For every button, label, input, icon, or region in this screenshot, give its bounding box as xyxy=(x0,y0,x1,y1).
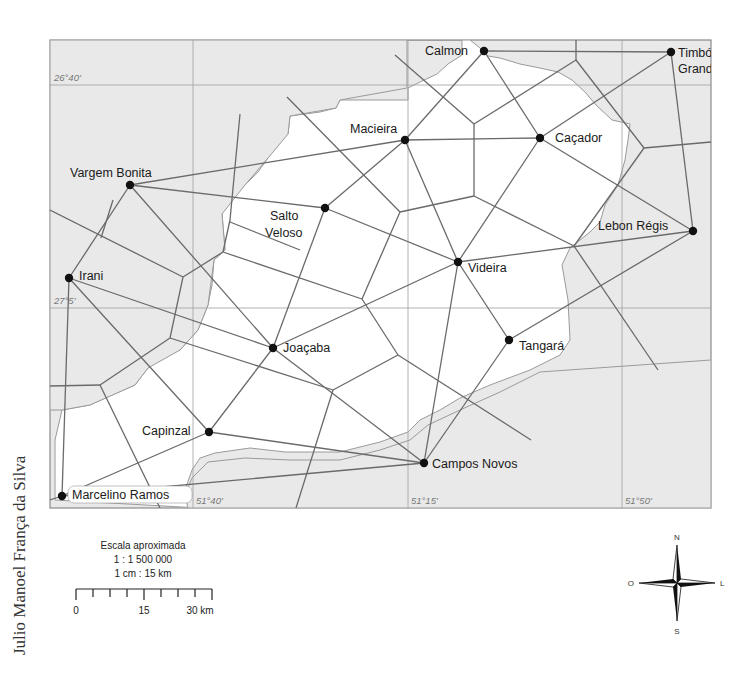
svg-text:1 cm : 15 km: 1 cm : 15 km xyxy=(114,568,171,579)
svg-text:0: 0 xyxy=(73,605,79,616)
svg-text:Marcelino Ramos: Marcelino Ramos xyxy=(72,488,169,502)
svg-text:Videira: Videira xyxy=(468,261,507,275)
svg-text:Capinzal: Capinzal xyxy=(142,424,191,438)
svg-text:27°5': 27°5' xyxy=(53,295,77,306)
map-figure: Calmon Timbó Grande Macieira Caçador Var… xyxy=(0,0,751,677)
svg-text:Grande: Grande xyxy=(678,62,720,76)
svg-text:Lebon Régis: Lebon Régis xyxy=(598,219,668,233)
city-marcelino-ramos[interactable]: Marcelino Ramos xyxy=(58,486,192,503)
svg-text:Campos Novos: Campos Novos xyxy=(432,457,517,471)
svg-text:1 : 1 500 000: 1 : 1 500 000 xyxy=(114,554,173,565)
svg-text:Tangará: Tangará xyxy=(519,339,564,353)
svg-text:51°40': 51°40' xyxy=(196,495,224,506)
svg-text:Irani: Irani xyxy=(79,269,103,283)
svg-text:Joaçaba: Joaçaba xyxy=(283,341,330,355)
compass-rose: N S L O xyxy=(628,533,725,636)
svg-text:26°40': 26°40' xyxy=(53,72,82,83)
compass-south: S xyxy=(674,627,679,636)
city-campos-novos[interactable]: Campos Novos xyxy=(420,457,518,471)
svg-text:Macieira: Macieira xyxy=(350,122,397,136)
compass-north: N xyxy=(674,533,680,542)
compass-west: O xyxy=(628,579,634,588)
svg-text:30 km: 30 km xyxy=(186,605,213,616)
author-credit: Julio Manoel França da Silva xyxy=(10,456,30,655)
svg-text:Caçador: Caçador xyxy=(555,131,602,145)
svg-text:Salto: Salto xyxy=(270,209,299,223)
svg-text:15: 15 xyxy=(138,605,150,616)
scale-bar: Escala aproximada 1 : 1 500 000 1 cm : 1… xyxy=(73,540,213,616)
svg-text:Veloso: Veloso xyxy=(265,226,303,240)
compass-east: L xyxy=(720,579,725,588)
svg-text:51°50': 51°50' xyxy=(625,495,653,506)
svg-text:Timbó: Timbó xyxy=(678,46,712,60)
svg-text:Calmon: Calmon xyxy=(425,44,468,58)
svg-text:Vargem Bonita: Vargem Bonita xyxy=(70,166,152,180)
svg-text:Escala aproximada: Escala aproximada xyxy=(100,540,185,551)
svg-text:51°15': 51°15' xyxy=(411,495,439,506)
